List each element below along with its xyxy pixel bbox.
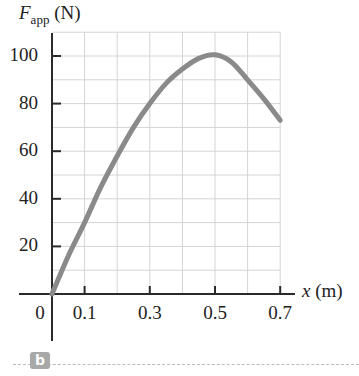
x-tick-label: 0.7 (268, 302, 292, 324)
axes (19, 33, 295, 341)
y-tick-label: 40 (0, 187, 38, 209)
y-subscript: app (31, 12, 50, 27)
x-axis-label: x (m) (302, 280, 343, 302)
y-symbol: F (19, 2, 31, 23)
y-unit: (N) (49, 2, 80, 23)
y-tick-label: 80 (0, 92, 38, 114)
grid-lines (52, 32, 280, 294)
x-tick-label: 0.5 (203, 302, 227, 324)
y-tick-label: 20 (0, 234, 38, 256)
panel-divider (13, 364, 359, 365)
panel-label-badge: b (30, 352, 50, 369)
force-curve (52, 55, 280, 294)
x-tick-label: 0.1 (73, 302, 97, 324)
y-axis-label: Fapp (N) (19, 2, 81, 28)
y-tick-label: 100 (0, 44, 38, 66)
x-tick-label: 0.3 (138, 302, 162, 324)
chart-plot (0, 0, 359, 376)
y-tick-label: 60 (0, 139, 38, 161)
x-unit: (m) (310, 280, 342, 301)
x-tick-label: 0 (35, 302, 45, 324)
